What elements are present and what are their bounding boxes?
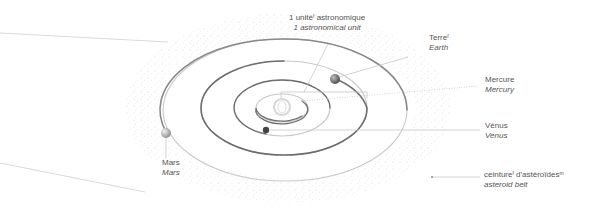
- earth-label: Terref Earth: [429, 33, 449, 53]
- venus-label: Vénus Venus: [485, 121, 508, 141]
- au-label-fr: 1 unitéf astronomique: [289, 13, 365, 23]
- mars-planet-icon: [161, 128, 171, 138]
- earth-label-en: Earth: [429, 43, 449, 53]
- mars-label: Mars Mars: [162, 158, 180, 178]
- venus-label-en: Venus: [485, 131, 508, 141]
- mercury-label: Mercure Mercury: [485, 75, 514, 95]
- mercury-label-fr: Mercure: [485, 75, 514, 85]
- earth-label-fr: Terref: [429, 33, 449, 43]
- asteroid-marker: [431, 176, 433, 178]
- mercury-label-en: Mercury: [485, 85, 514, 95]
- earth-planet-icon: [330, 74, 340, 84]
- asteroid-belt-label: ceinturef d'astéroïdesm asteroid belt: [484, 170, 564, 190]
- au-label: 1 unitéf astronomique 1 astronomical uni…: [289, 13, 365, 33]
- mars-label-en: Mars: [162, 168, 180, 178]
- venus-label-fr: Vénus: [485, 121, 508, 131]
- mars-label-fr: Mars: [162, 158, 180, 168]
- venus-planet-icon: [263, 127, 269, 133]
- asteroid-belt-label-en: asteroid belt: [484, 180, 564, 190]
- au-label-en: 1 astronomical unit: [289, 23, 365, 33]
- sun-icon: [274, 99, 290, 115]
- asteroid-belt-label-fr: ceinturef d'astéroïdesm: [484, 170, 564, 180]
